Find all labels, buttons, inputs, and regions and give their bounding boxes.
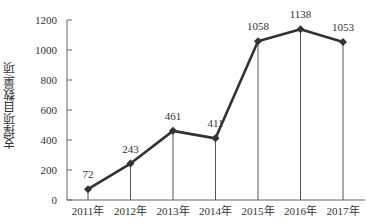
data-label: 243 bbox=[122, 143, 139, 155]
y-tick-label: 600 bbox=[41, 104, 58, 116]
data-label: 461 bbox=[165, 110, 182, 122]
axes: 0200400600800100012002011年2012年2013年2014… bbox=[35, 14, 365, 217]
data-label: 411 bbox=[207, 117, 223, 129]
data-label: 1058 bbox=[247, 20, 270, 32]
drop-lines bbox=[88, 29, 343, 200]
y-tick-label: 800 bbox=[41, 74, 58, 86]
x-tick-label: 2016年 bbox=[284, 204, 317, 217]
diamond-marker-icon bbox=[297, 25, 305, 33]
x-tick-label: 2013年 bbox=[157, 204, 190, 217]
x-tick-label: 2014年 bbox=[199, 204, 232, 217]
x-tick-label: 2017年 bbox=[327, 204, 360, 217]
x-tick-label: 2015年 bbox=[242, 204, 275, 217]
x-tick-label: 2011年 bbox=[72, 204, 105, 217]
y-tick-label: 0 bbox=[52, 194, 58, 206]
diamond-marker-icon bbox=[339, 38, 347, 46]
y-tick-label: 1000 bbox=[35, 44, 58, 56]
y-tick-label: 1200 bbox=[35, 14, 58, 26]
data-label: 1138 bbox=[290, 8, 312, 20]
x-tick-label: 2012年 bbox=[114, 204, 147, 217]
y-tick-label: 200 bbox=[41, 164, 58, 176]
y-tick-label: 400 bbox=[41, 134, 58, 146]
data-label: 1053 bbox=[332, 21, 355, 33]
diamond-marker-icon bbox=[212, 134, 220, 142]
diamond-marker-icon bbox=[254, 37, 262, 45]
data-label: 72 bbox=[83, 168, 94, 180]
line-chart: 0200400600800100012002011年2012年2013年2014… bbox=[0, 0, 377, 224]
